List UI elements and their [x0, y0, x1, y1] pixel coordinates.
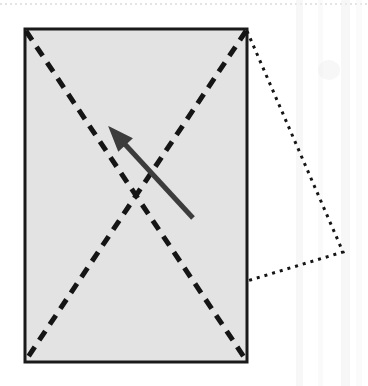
scan-streak-group — [296, 0, 362, 386]
scan-smudge — [318, 60, 340, 80]
folding-diagram-svg — [0, 0, 368, 386]
scan-streak — [341, 0, 350, 386]
figure-canvas: Paper folding diagram A shaded rectangul… — [0, 0, 368, 386]
scan-streak — [356, 0, 362, 386]
scan-streak — [296, 0, 303, 386]
